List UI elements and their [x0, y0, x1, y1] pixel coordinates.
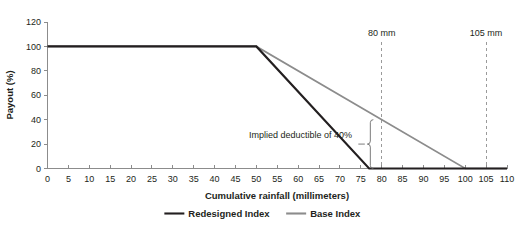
- deductible-bracket: [367, 120, 373, 169]
- series-line-base-index: [48, 46, 508, 168]
- x-tick-label: 35: [189, 174, 199, 184]
- marker-label: 105 mm: [470, 28, 503, 38]
- x-tick-label: 60: [293, 174, 303, 184]
- y-axis-tick-labels: 020406080100120: [26, 17, 41, 174]
- y-tick-label: 20: [31, 139, 41, 149]
- marker-labels: 80 mm105 mm: [368, 28, 502, 38]
- x-tick-label: 110: [500, 174, 514, 184]
- deductible-annotation-label: Implied deductible of 40%: [249, 130, 352, 140]
- x-tick-label: 20: [126, 174, 136, 184]
- y-tick-label: 60: [31, 90, 41, 100]
- x-tick-label: 55: [272, 174, 282, 184]
- legend-label-1: Base Index: [310, 208, 361, 219]
- x-tick-label: 70: [335, 174, 345, 184]
- x-tick-label: 25: [147, 174, 157, 184]
- y-axis-title: Payout (%): [4, 70, 15, 119]
- x-axis-tick-labels: 0510152025303540455055606570758085909510…: [45, 174, 514, 184]
- chart-legend: Redesigned IndexBase Index: [164, 208, 361, 219]
- x-tick-label: 10: [84, 174, 94, 184]
- rainfall-payout-chart: 020406080100120 051015202530354045505560…: [0, 0, 525, 229]
- x-tick-label: 90: [418, 174, 428, 184]
- x-tick-label: 0: [45, 174, 50, 184]
- deductible-annotation: [358, 120, 373, 169]
- series-line-redesigned-index: [48, 46, 508, 168]
- y-tick-label: 80: [31, 66, 41, 76]
- series-lines: [48, 46, 508, 168]
- y-tick-label: 40: [31, 115, 41, 125]
- y-axis-ticks: [44, 22, 48, 169]
- x-tick-label: 5: [66, 174, 71, 184]
- y-tick-label: 100: [26, 42, 41, 52]
- y-tick-label: 120: [26, 17, 41, 27]
- chart-canvas: 020406080100120 051015202530354045505560…: [0, 0, 525, 229]
- x-tick-label: 50: [251, 174, 261, 184]
- x-tick-label: 100: [458, 174, 473, 184]
- x-tick-label: 40: [210, 174, 220, 184]
- x-axis-title: Cumulative rainfall (millimeters): [205, 190, 349, 201]
- marker-label: 80 mm: [368, 28, 396, 38]
- x-tick-label: 15: [105, 174, 115, 184]
- legend-label-0: Redesigned Index: [188, 208, 270, 219]
- x-tick-label: 45: [230, 174, 240, 184]
- x-tick-label: 95: [439, 174, 449, 184]
- x-tick-label: 30: [168, 174, 178, 184]
- y-tick-label: 0: [36, 164, 41, 174]
- x-tick-label: 105: [479, 174, 494, 184]
- x-tick-label: 85: [398, 174, 408, 184]
- x-tick-label: 65: [314, 174, 324, 184]
- x-tick-label: 80: [377, 174, 387, 184]
- x-tick-label: 75: [356, 174, 366, 184]
